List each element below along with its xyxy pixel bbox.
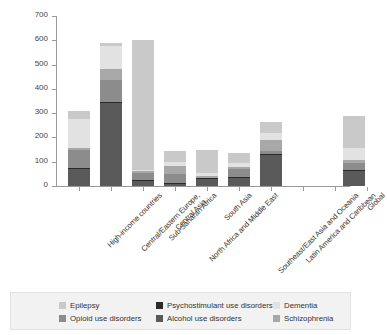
x-tick-mark (335, 187, 336, 191)
legend-item[interactable]: Schizophrenia (273, 314, 333, 323)
y-tick-label: 600 (35, 34, 48, 43)
legend-item[interactable]: Opioid use disorders (59, 314, 142, 323)
y-tick-mark (52, 65, 56, 66)
bar-segment (132, 170, 154, 171)
plot-area (57, 16, 349, 186)
bar-segment (228, 178, 250, 186)
legend-label: Opioid use disorders (70, 314, 142, 323)
legend-item[interactable]: Dementia (273, 301, 317, 310)
bar-segment (260, 140, 282, 151)
bar-stack (68, 16, 90, 186)
bar-segment (260, 133, 282, 140)
y-tick-label: 300 (35, 107, 48, 116)
legend-swatch (273, 302, 280, 309)
legend-item[interactable]: Epilepsy (59, 301, 99, 310)
bar-segment (260, 154, 282, 155)
bar-segment (100, 102, 122, 103)
bar-segment (260, 122, 282, 133)
x-axis-label: Southeast/East Asia and Oceania (276, 191, 360, 275)
y-tick-mark (52, 162, 56, 163)
legend-label: Schizophrenia (284, 314, 333, 323)
legend-swatch (59, 302, 66, 309)
bar-segment (164, 162, 186, 166)
bar-stack (228, 16, 250, 186)
bar-segment (100, 43, 122, 46)
y-tick-mark (52, 40, 56, 41)
bar-segment (196, 150, 218, 173)
x-tick-mark (111, 187, 112, 191)
bar-segment (100, 80, 122, 102)
y-tick-label: 500 (35, 59, 48, 68)
y-tick-label: 100 (35, 156, 48, 165)
bar-segment (196, 179, 218, 186)
legend-item[interactable]: Psychostimulant use disorders (156, 301, 273, 310)
legend-swatch (156, 302, 163, 309)
y-tick-label: 700 (35, 10, 48, 19)
x-tick-mark (271, 187, 272, 191)
bar-segment (196, 176, 218, 178)
bar-segment (100, 46, 122, 70)
x-axis-line (56, 186, 350, 187)
legend-label: Psychostimulant use disorders (167, 301, 273, 310)
x-tick-mark (239, 187, 240, 191)
bar-segment (260, 151, 282, 154)
legend-label: Alcohol use disorders (167, 314, 242, 323)
y-tick-label: 200 (35, 131, 48, 140)
bar-stack (100, 16, 122, 186)
bar-stack (260, 16, 282, 186)
bar-segment (260, 155, 282, 186)
y-tick-label: 0 (44, 180, 48, 189)
bar-segment (343, 148, 365, 161)
y-tick-mark (52, 89, 56, 90)
bar-segment (228, 169, 250, 178)
y-tick-mark (52, 186, 56, 187)
x-axis-label-line: Latin America and Caribbean (304, 191, 378, 265)
bar-segment (164, 166, 186, 174)
y-tick-mark (52, 16, 56, 17)
bar-segment (164, 151, 186, 162)
x-tick-mark (79, 187, 80, 191)
legend-swatch (273, 315, 280, 322)
bar-stack (343, 16, 365, 186)
chart-legend: EpilepsyPsychostimulant use disordersDem… (10, 292, 351, 330)
x-tick-mark (303, 187, 304, 191)
bar-segment (228, 163, 250, 167)
bar-segment (100, 69, 122, 80)
bar-segment (132, 40, 154, 170)
x-axis-label-line: Southeast/East Asia and Oceania (276, 191, 360, 275)
bar-segment (164, 174, 186, 183)
bar-segment (343, 163, 365, 169)
bar-segment (228, 153, 250, 163)
y-tick-mark (52, 113, 56, 114)
bar-segment (343, 170, 365, 171)
bar-segment (68, 169, 90, 186)
bar-segment (68, 119, 90, 148)
bar-segment (343, 116, 365, 147)
bar-segment (68, 111, 90, 119)
bar-segment (228, 167, 250, 169)
bar-segment (68, 150, 90, 168)
y-axis-title-container: Age-standardized YLL rate (per 100,000) (12, 16, 13, 186)
bar-segment (343, 170, 365, 186)
bar-stack (164, 16, 186, 186)
y-tick-mark (52, 137, 56, 138)
x-tick-mark (143, 187, 144, 191)
x-tick-mark (207, 187, 208, 191)
x-tick-mark (367, 187, 368, 191)
legend-item[interactable]: Alcohol use disorders (156, 314, 242, 323)
bar-segment (343, 160, 365, 163)
x-axis-label: Latin America and Caribbean (304, 191, 378, 265)
bar-segment (68, 148, 90, 150)
legend-swatch (156, 315, 163, 322)
bar-segment (68, 168, 90, 169)
bar-stack (196, 16, 218, 186)
bar-segment (100, 103, 122, 186)
legend-swatch (59, 315, 66, 322)
bar-segment (228, 177, 250, 178)
legend-items: EpilepsyPsychostimulant use disordersDem… (11, 293, 350, 329)
legend-label: Dementia (284, 301, 317, 310)
bar-stack (132, 16, 154, 186)
bar-segment (164, 184, 186, 186)
y-tick-label: 400 (35, 83, 48, 92)
